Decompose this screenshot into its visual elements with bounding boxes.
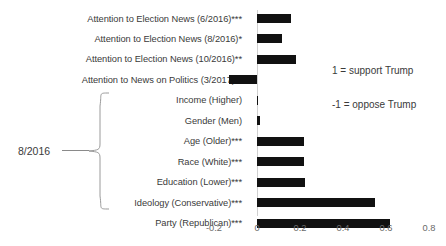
x-tick-label: 0.8: [423, 223, 436, 233]
x-tick-label: 0.4: [337, 223, 350, 233]
bar: [257, 137, 304, 146]
bar: [257, 157, 304, 166]
bar: [257, 34, 282, 43]
x-tick-label: -0.2: [206, 223, 222, 233]
group-bracket-stem: [62, 150, 89, 151]
group-bracket-label: 8/2016: [18, 145, 50, 157]
plot-area: [0, 0, 446, 246]
bar: [257, 219, 390, 228]
bar: [257, 14, 291, 23]
legend-annotation: -1 = oppose Trump: [332, 99, 416, 110]
x-tick-label: 0: [254, 223, 259, 233]
bar: [257, 198, 375, 207]
legend-annotation: 1 = support Trump: [332, 65, 413, 76]
bar: [257, 116, 260, 125]
x-tick-label: 0.2: [294, 223, 307, 233]
bar: [257, 96, 258, 105]
x-tick-label: 0.6: [380, 223, 393, 233]
bar: [257, 55, 296, 64]
bar: [257, 178, 305, 187]
bar: [229, 75, 257, 84]
bar-chart: Attention to Election News (6/2016)***At…: [0, 0, 446, 246]
